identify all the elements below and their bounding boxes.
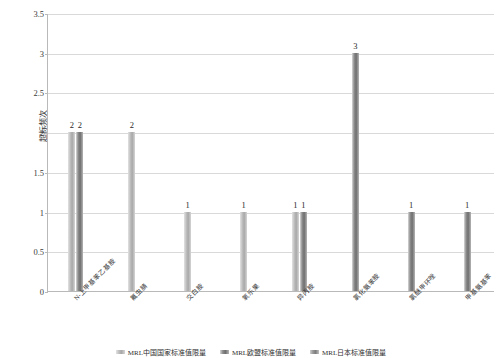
bar[interactable]: 1 (184, 212, 191, 291)
y-tick-label: 2 (4, 128, 44, 138)
bar-group: 1 (160, 14, 216, 291)
bar-group: 1 (439, 14, 495, 291)
bar-group-bars: 1 (383, 14, 439, 291)
bar-group-bars: 1 (439, 14, 495, 291)
bar[interactable]: 1 (292, 212, 299, 291)
bar[interactable]: 1 (408, 212, 415, 291)
y-tick-label: 2.5 (4, 88, 44, 98)
legend-swatch (220, 350, 229, 354)
y-tick-label: 1.5 (4, 168, 44, 178)
legend-label: MRL日本标准值限量 (322, 347, 386, 357)
bar-group: 1 (216, 14, 272, 291)
bar-group-bars: 22 (48, 14, 104, 291)
legend-swatch (310, 350, 319, 354)
bar-group-bars: 3 (327, 14, 383, 291)
bar[interactable]: 1 (300, 212, 307, 291)
bar-value-label: 1 (465, 200, 469, 210)
y-tick-label: 0 (4, 287, 44, 297)
bar-group: 11 (272, 14, 328, 291)
bar[interactable]: 2 (128, 132, 135, 291)
bar-group-bars: 11 (272, 14, 328, 291)
bar-value-label: 2 (78, 120, 82, 130)
bar-value-label: 1 (301, 200, 305, 210)
y-tick-mark (45, 292, 48, 293)
bar[interactable]: 2 (76, 132, 83, 291)
plot-area: 00.511.522.533.5 2221111311 (47, 14, 494, 292)
bar-value-label: 1 (186, 200, 190, 210)
legend-label: MRL欧盟标准值限量 (232, 347, 296, 357)
bar[interactable]: 1 (240, 212, 247, 291)
bar-group: 22 (48, 14, 104, 291)
y-tick-label: 3 (4, 49, 44, 59)
y-tick-label: 3.5 (4, 9, 44, 19)
legend-item[interactable]: MRL中国国家标准值限量 (116, 347, 206, 357)
bar-value-label: 2 (130, 120, 134, 130)
bar-value-label: 1 (409, 200, 413, 210)
bar-group: 2 (104, 14, 160, 291)
bar-group-bars: 2 (104, 14, 160, 291)
chart-legend: MRL中国国家标准值限量MRL欧盟标准值限量MRL日本标准值限量 (0, 346, 502, 358)
legend-label: MRL中国国家标准值限量 (128, 347, 206, 357)
bar[interactable]: 2 (68, 132, 75, 291)
legend-item[interactable]: MRL欧盟标准值限量 (220, 347, 296, 357)
bar-group: 3 (327, 14, 383, 291)
bar-group-bars: 1 (216, 14, 272, 291)
legend-swatch (116, 350, 125, 354)
bar-value-label: 3 (353, 41, 357, 51)
bar-chart: 超标频次 00.511.522.533.5 2221111311 N-上甲基苯乙… (0, 0, 502, 358)
bar[interactable]: 3 (352, 53, 359, 291)
y-tick-label: 0.5 (4, 247, 44, 257)
y-tick-label: 1 (4, 208, 44, 218)
bar-group: 1 (383, 14, 439, 291)
bar-value-label: 1 (293, 200, 297, 210)
legend-item[interactable]: MRL日本标准值限量 (310, 347, 386, 357)
bar[interactable]: 1 (464, 212, 471, 291)
bar-value-label: 2 (70, 120, 74, 130)
bar-value-label: 1 (241, 200, 245, 210)
bar-group-bars: 1 (160, 14, 216, 291)
